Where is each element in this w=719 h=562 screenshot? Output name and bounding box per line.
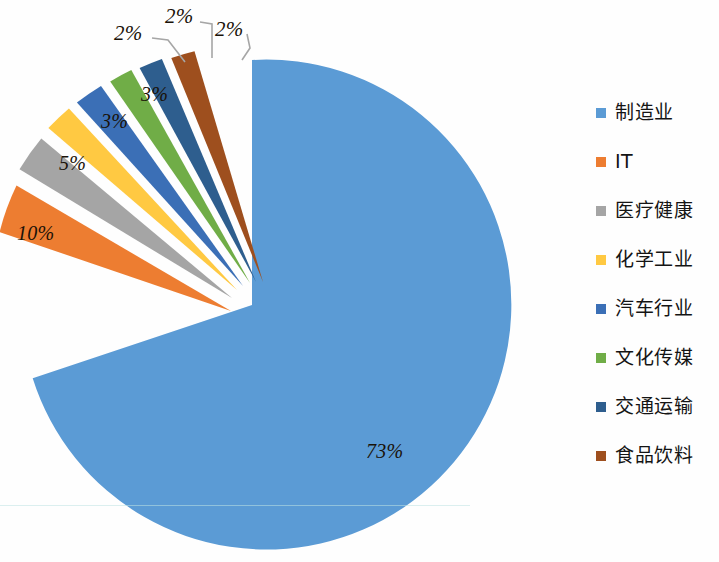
pie-slice-manufacturing[interactable] <box>33 60 512 550</box>
legend-swatch-icon <box>596 451 606 461</box>
label-transport: 2% <box>165 4 193 29</box>
label-health: 5% <box>59 152 86 175</box>
legend-label: IT <box>615 152 633 171</box>
legend-label: 化学工业 <box>615 250 693 269</box>
legend-label: 医疗健康 <box>615 201 693 220</box>
legend-item-manufacturing[interactable]: 制造业 <box>596 88 719 137</box>
legend-swatch-icon <box>596 108 606 118</box>
scan-artifact-line <box>0 505 470 506</box>
legend-swatch-icon <box>596 206 606 216</box>
label-chemical: 3% <box>101 110 128 133</box>
label-auto: 3% <box>141 83 168 106</box>
chart-page: 73% 10% 5% 3% 3% 2% 2% 2% 制造业 IT 医疗健康 化学… <box>0 0 719 562</box>
label-media: 2% <box>114 21 142 46</box>
legend-swatch-icon <box>596 304 606 314</box>
legend-label: 文化传媒 <box>615 348 693 367</box>
label-food: 2% <box>215 17 243 42</box>
leader-line-transport <box>200 22 212 58</box>
legend-item-transport[interactable]: 交通运输 <box>596 382 719 431</box>
legend-item-it[interactable]: IT <box>596 137 719 186</box>
legend-swatch-icon <box>596 255 606 265</box>
legend-swatch-icon <box>596 353 606 363</box>
legend-swatch-icon <box>596 157 606 167</box>
legend-item-auto[interactable]: 汽车行业 <box>596 284 719 333</box>
legend-item-health[interactable]: 医疗健康 <box>596 186 719 235</box>
legend-label: 制造业 <box>615 103 674 122</box>
pie-chart: 73% 10% 5% 3% 3% 2% 2% 2% <box>0 0 580 562</box>
chart-legend: 制造业 IT 医疗健康 化学工业 汽车行业 文化传媒 交通运输 食品饮料 <box>596 88 719 480</box>
label-manufacturing: 73% <box>366 440 403 463</box>
legend-label: 交通运输 <box>615 397 693 416</box>
legend-item-chemical[interactable]: 化学工业 <box>596 235 719 284</box>
legend-item-media[interactable]: 文化传媒 <box>596 333 719 382</box>
legend-item-food[interactable]: 食品饮料 <box>596 431 719 480</box>
pie-svg <box>0 0 580 562</box>
legend-label: 食品饮料 <box>615 446 693 465</box>
legend-swatch-icon <box>596 402 606 412</box>
label-it: 10% <box>17 222 54 245</box>
legend-label: 汽车行业 <box>615 299 693 318</box>
